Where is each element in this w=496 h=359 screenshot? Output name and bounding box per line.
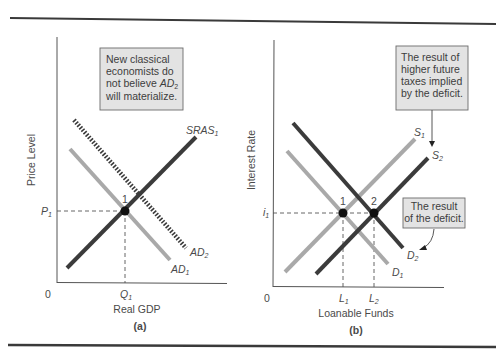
- panel-a-origin: 0: [45, 288, 51, 300]
- panel-b-origin: 0: [264, 292, 270, 304]
- real-gdp-label: Real GDP: [113, 303, 160, 315]
- callout-b-bottom-line1: The result: [411, 200, 458, 212]
- sras1-label: SRAS1: [186, 124, 219, 137]
- point-1-label: 1: [340, 195, 346, 207]
- d1-curve: [287, 151, 388, 264]
- d2-curve: [293, 123, 403, 248]
- ad1-label: AD1: [170, 263, 190, 276]
- panel-a-x-axis: [57, 283, 227, 284]
- panel-a: 1 Price Level P1 0 Q1 Real GDP (a) SRAS1…: [25, 37, 227, 332]
- panel-b-callout-deficit: The result of the deficit.: [403, 198, 465, 250]
- callout-a-line2: economists do: [106, 65, 174, 77]
- point-1-label: 1: [122, 193, 128, 205]
- panel-b-x-axis: [273, 287, 444, 288]
- l1-label: L1: [339, 292, 349, 305]
- s2-label: S2: [432, 149, 443, 162]
- s1-curve: [285, 139, 415, 272]
- ad1-curve: [70, 149, 170, 260]
- callout-b-top-line2: higher future: [401, 63, 460, 75]
- l2-label: L2: [369, 292, 379, 305]
- callout-a-line3: not believe AD2: [106, 77, 178, 90]
- arrowhead-icon: [429, 141, 435, 147]
- figure: 1 Price Level P1 0 Q1 Real GDP (a) SRAS1…: [0, 0, 496, 359]
- panel-b-callout-taxes: The result of higher future taxes implie…: [396, 46, 468, 147]
- loanable-funds-label: Loanable Funds: [318, 307, 393, 319]
- panel-b-y-axis: [273, 40, 274, 287]
- callout-a-line4: will materialize.: [105, 90, 177, 102]
- d2-label: D2: [407, 249, 419, 262]
- panel-b-caption: (b): [349, 324, 362, 336]
- point-2-label: 2: [371, 195, 377, 207]
- callout-a-line1: New classical: [106, 53, 170, 65]
- top-rule: [10, 18, 496, 24]
- bottom-rule: [8, 345, 496, 347]
- q1-label: Q1: [120, 288, 132, 301]
- ad2-label: AD2: [189, 246, 209, 259]
- sras1-curve: [67, 137, 196, 268]
- d1-label: D1: [392, 266, 404, 279]
- i1-label: i1: [263, 206, 269, 219]
- callout-b-top-line1: The result of: [401, 51, 459, 63]
- equilibrium-point-1: [339, 209, 348, 218]
- s1-label: S1: [414, 126, 425, 139]
- callout-b-bottom-arrow: [423, 229, 434, 248]
- ad2-curve: [74, 120, 186, 248]
- panel-a-callout: New classical economists do not believe …: [100, 48, 183, 110]
- equilibrium-point-2: [370, 209, 379, 218]
- price-level-label: Price Level: [25, 134, 37, 186]
- panel-b: 1 2 Interest Rate i1 0 L1 L2 Loanable Fu…: [245, 40, 468, 336]
- equilibrium-point-1: [121, 207, 130, 216]
- callout-b-top-line3: taxes implied: [401, 75, 462, 87]
- p1-label: P1: [41, 205, 52, 218]
- callout-b-top-line4: by the deficit.: [401, 87, 463, 99]
- panel-a-caption: (a): [134, 320, 147, 332]
- interest-rate-label: Interest Rate: [245, 130, 257, 190]
- callout-b-bottom-line2: of the deficit.: [404, 212, 464, 224]
